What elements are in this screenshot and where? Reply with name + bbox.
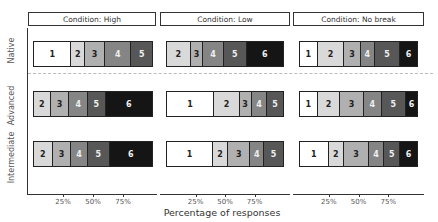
- bar-segment: 6: [110, 142, 152, 166]
- facet-strip-high: Condition: High: [28, 12, 156, 26]
- bar-segment: 3: [340, 92, 364, 116]
- bar-segment: 2: [34, 92, 51, 116]
- bar-segment: 4: [69, 92, 88, 116]
- bar-segment: 4: [369, 142, 385, 166]
- stacked-bar: 12345: [33, 41, 153, 67]
- row-label-text: Intermediate: [8, 131, 17, 183]
- row-label-advanced: Advanced: [2, 80, 22, 130]
- bar-segment: 5: [375, 42, 401, 66]
- row-label-native: Native: [2, 32, 22, 68]
- stacked-bar: 12345: [166, 141, 284, 167]
- bar-segment: 3: [191, 42, 204, 66]
- bar-segment: 4: [364, 92, 382, 116]
- bar-segment: 5: [224, 42, 247, 66]
- x-tick-mark: [329, 194, 330, 197]
- bar-segment: 5: [382, 92, 407, 116]
- stacked-bar: 123456: [299, 91, 418, 117]
- x-tick-mark: [93, 194, 94, 197]
- bar-segment: 4: [71, 142, 88, 166]
- x-tick-mark: [255, 194, 256, 197]
- y-axis-line: [27, 28, 28, 194]
- bar-segment: 3: [240, 92, 252, 116]
- bar-segment: 1: [34, 42, 71, 66]
- bar-segment: 1: [167, 142, 213, 166]
- x-tick-mark: [225, 194, 226, 197]
- bar-segment: 6: [400, 142, 417, 166]
- bar-segment: 2: [329, 142, 345, 166]
- bar-segment: 2: [318, 92, 341, 116]
- stacked-bar: 23456: [166, 41, 284, 67]
- native-separator-line: [28, 73, 433, 74]
- x-tick-mark: [359, 194, 360, 197]
- x-tick-label: 50%: [78, 198, 108, 206]
- bar-segment: 3: [344, 142, 369, 166]
- bar-segment: 4: [252, 92, 268, 116]
- bar-segment: 4: [250, 142, 264, 166]
- x-tick-mark: [196, 194, 197, 197]
- row-label-text: Advanced: [8, 85, 17, 125]
- stacked-bar: 23456: [33, 91, 153, 117]
- x-tick-label: 50%: [210, 198, 240, 206]
- bar-segment: 2: [34, 142, 53, 166]
- stacked-bar: 123456: [299, 141, 418, 167]
- facet-strip-no-break: Condition: No break: [293, 12, 424, 26]
- bar-segment: 5: [88, 92, 106, 116]
- bar-segment: 1: [300, 142, 329, 166]
- bar-segment: 4: [105, 42, 132, 66]
- row-label-intermediate: Intermediate: [2, 132, 22, 182]
- bar-segment: 5: [384, 142, 400, 166]
- bar-segment: 3: [228, 142, 251, 166]
- x-tick-label: 75%: [240, 198, 270, 206]
- bar-segment: 1: [300, 42, 318, 66]
- x-tick-label: 25%: [48, 198, 78, 206]
- stacked-bar: 23456: [33, 141, 153, 167]
- x-tick-mark: [388, 194, 389, 197]
- bar-segment: 4: [203, 42, 224, 66]
- x-tick-mark: [63, 194, 64, 197]
- x-tick-label: 25%: [181, 198, 211, 206]
- stacked-bar: 123456: [299, 41, 418, 67]
- bar-segment: 5: [267, 92, 283, 116]
- x-axis-title: Percentage of responses: [0, 207, 438, 218]
- x-tick-label: 75%: [108, 198, 138, 206]
- bar-segment: 2: [318, 42, 345, 66]
- x-tick-label: 75%: [373, 198, 403, 206]
- bar-segment: 6: [106, 92, 152, 116]
- bar-segment: 1: [167, 92, 214, 116]
- bar-segment: 2: [167, 42, 191, 66]
- bar-segment: 3: [51, 92, 70, 116]
- bar-segment: 3: [344, 42, 361, 66]
- x-tick-label: 25%: [314, 198, 344, 206]
- bar-segment: 3: [53, 142, 72, 166]
- bar-segment: 5: [88, 142, 110, 166]
- bar-segment: 1: [300, 92, 318, 116]
- bar-segment: 6: [247, 42, 283, 66]
- row-label-text: Native: [8, 37, 17, 63]
- x-axis-line-high: [27, 194, 157, 195]
- stacked-bar: 12345: [166, 91, 284, 117]
- x-tick-label: 50%: [344, 198, 374, 206]
- facet-strip-low: Condition: Low: [160, 12, 290, 26]
- bar-segment: 6: [400, 42, 417, 66]
- bar-segment: 5: [131, 42, 152, 66]
- bar-segment: 2: [214, 92, 240, 116]
- bar-segment: 4: [361, 42, 375, 66]
- bar-segment: 6: [406, 92, 417, 116]
- x-tick-mark: [123, 194, 124, 197]
- bar-segment: 3: [85, 42, 105, 66]
- bar-segment: 5: [264, 142, 283, 166]
- bar-segment: 2: [213, 142, 228, 166]
- bar-segment: 2: [71, 42, 85, 66]
